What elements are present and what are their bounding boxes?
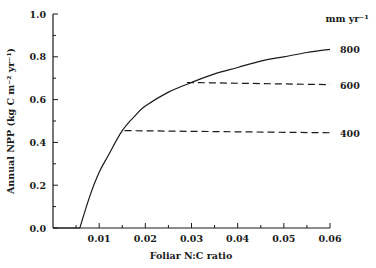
x-tick-label: 0.01 — [88, 233, 111, 244]
legend-title: mm yr⁻¹ — [325, 13, 368, 24]
series-line-400 — [125, 131, 330, 133]
y-tick-label: 0.8 — [29, 51, 46, 62]
ticks: 0.00.20.40.60.81.00.010.020.030.040.050.… — [29, 9, 341, 245]
series-labels: 800600400 — [340, 44, 360, 138]
y-tick-label: 1.0 — [29, 9, 46, 20]
series-line-800 — [53, 49, 330, 228]
y-tick-label: 0.4 — [29, 137, 46, 148]
y-axis-title: Annual NPP (kg C m⁻² yr⁻¹) — [5, 48, 16, 195]
x-tick-label: 0.03 — [180, 233, 203, 244]
y-tick-label: 0.0 — [29, 223, 46, 234]
x-tick-label: 0.04 — [226, 233, 250, 244]
axes — [53, 14, 330, 228]
y-tick-label: 0.2 — [29, 180, 46, 191]
x-axis-title: Foliar N:C ratio — [150, 250, 232, 261]
x-tick-label: 0.02 — [134, 233, 157, 244]
x-tick-label: 0.05 — [272, 233, 295, 244]
y-tick-label: 0.6 — [29, 94, 46, 105]
x-tick-label: 0.06 — [318, 233, 342, 244]
series-line-600 — [187, 82, 330, 84]
series-label-800: 800 — [340, 44, 360, 55]
series-label-600: 600 — [340, 80, 360, 91]
npp-chart: 0.00.20.40.60.81.00.010.020.030.040.050.… — [0, 0, 376, 268]
data-lines — [53, 49, 330, 228]
series-label-400: 400 — [340, 128, 360, 139]
